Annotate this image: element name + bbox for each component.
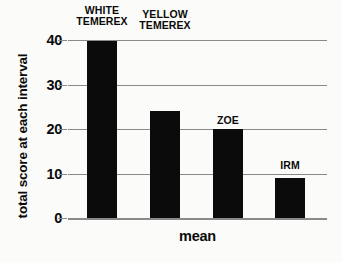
tickmark-30 — [58, 85, 67, 86]
y-tick-label-40: 40 — [28, 33, 62, 48]
tickmark-20 — [58, 129, 67, 130]
tickmark-0 — [58, 218, 67, 219]
bar-label-yellow-temerex: YELLOW TEMEREX — [125, 9, 205, 30]
y-tick-label-20: 20 — [28, 122, 62, 137]
y-tick-label-30: 30 — [28, 78, 62, 93]
tickmark-40 — [58, 40, 67, 41]
x-axis-label: mean — [68, 228, 327, 244]
y-tick-label-10: 10 — [28, 167, 62, 182]
bar-yellow-temerex — [150, 111, 180, 218]
gridline-baseline-0 — [68, 218, 327, 220]
bar-white-temerex — [87, 41, 117, 218]
tickmark-10 — [58, 174, 67, 175]
plot-area: WHITE TEMEREX YELLOW TEMEREX ZOE IRM — [68, 40, 327, 218]
bar-label-zoe: ZOE — [198, 115, 258, 126]
y-axis-tick-labels: 40 30 20 10 0 — [28, 0, 62, 262]
bar-irm — [275, 178, 305, 218]
bar-chart-figure: total score at each interval 40 30 20 10… — [0, 0, 342, 262]
bar-zoe — [213, 129, 243, 218]
y-tick-label-0: 0 — [28, 211, 62, 226]
bar-label-irm: IRM — [260, 160, 320, 171]
